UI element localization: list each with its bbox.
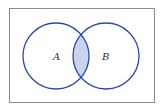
set-b-label: B xyxy=(101,51,109,62)
set-a-label: A xyxy=(52,51,60,62)
venn-diagram: A B xyxy=(0,0,165,105)
